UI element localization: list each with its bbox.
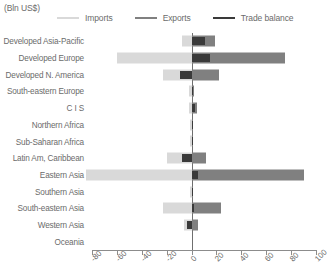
category-label: South-eastern Europe [7, 87, 84, 96]
category-label: Developed Europe [19, 54, 84, 63]
bar-row [92, 116, 316, 133]
x-tick-label: 0 [189, 254, 199, 264]
bar-row [92, 200, 316, 217]
bar-balance[interactable] [180, 71, 191, 79]
bar-row [92, 150, 316, 167]
bar-balance[interactable] [192, 137, 194, 145]
plot-area [92, 33, 316, 250]
bar-imports[interactable] [117, 53, 192, 64]
bar-balance[interactable] [192, 104, 196, 112]
bar-row [92, 133, 316, 150]
legend-item-imports[interactable]: Imports [57, 13, 113, 23]
legend-swatch-imports [57, 17, 79, 19]
category-axis-labels: Developed Asia-PacificDeveloped EuropeDe… [0, 33, 88, 250]
bar-exports[interactable] [192, 203, 222, 214]
bar-imports[interactable] [86, 169, 192, 180]
category-label: Developed Asia-Pacific [4, 37, 84, 46]
category-label: Northern Africa [32, 120, 84, 129]
bar-rows [92, 33, 316, 250]
legend-label-imports: Imports [85, 13, 113, 23]
x-tick-label: 40 [238, 251, 251, 264]
bar-imports[interactable] [182, 36, 192, 47]
bar-balance[interactable] [187, 221, 192, 229]
units-note: (Bln US$) [4, 3, 40, 13]
legend-swatch-balance [213, 17, 235, 19]
bar-row [92, 217, 316, 234]
bar-balance[interactable] [192, 87, 194, 95]
bar-imports[interactable] [163, 203, 192, 214]
legend-item-balance[interactable]: Trade balance [213, 13, 294, 23]
bar-row [92, 66, 316, 83]
bar-balance[interactable] [192, 204, 194, 212]
bar-balance[interactable] [192, 171, 198, 179]
category-label: South-eastern Asia [18, 204, 84, 213]
category-label: C I S [67, 104, 84, 113]
legend-label-exports: Exports [163, 13, 191, 23]
bar-balance[interactable] [182, 154, 192, 162]
bar-exports[interactable] [192, 153, 207, 164]
x-tick-label: 20 [213, 251, 226, 264]
legend-item-exports[interactable]: Exports [135, 13, 191, 23]
bar-balance[interactable] [192, 37, 206, 45]
x-tick-label: 60 [263, 251, 276, 264]
bar-row [92, 83, 316, 100]
bar-exports[interactable] [192, 169, 304, 180]
bar-balance[interactable] [192, 121, 194, 129]
legend-swatch-exports [135, 17, 157, 19]
category-label: Eastern Asia [40, 170, 84, 179]
bar-row [92, 233, 316, 250]
bar-row [92, 167, 316, 184]
category-label: Western Asia [38, 220, 84, 229]
legend-label-balance: Trade balance [241, 13, 294, 23]
bar-row [92, 100, 316, 117]
bar-exports[interactable] [192, 219, 198, 230]
bar-balance[interactable] [192, 188, 194, 196]
bar-row [92, 183, 316, 200]
chart-legend: ImportsExportsTrade balance [57, 13, 294, 23]
category-label: Latin Am, Caribbean [13, 154, 84, 163]
bar-exports[interactable] [192, 69, 219, 80]
bar-row [92, 33, 316, 50]
category-label: Developed N. America [6, 70, 84, 79]
bar-balance[interactable] [192, 54, 211, 62]
category-label: Southern Asia [35, 187, 84, 196]
x-tick-label: 80 [288, 251, 301, 264]
bar-row [92, 50, 316, 67]
category-label: Oceania [55, 237, 84, 246]
category-label: Sub-Saharan Africa [16, 137, 84, 146]
